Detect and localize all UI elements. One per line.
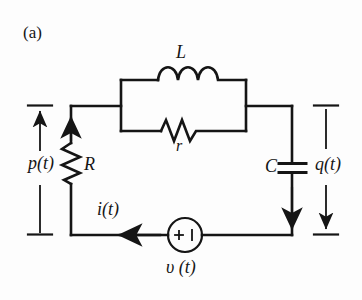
- charge-label: q(t): [315, 155, 341, 173]
- source-polarity-marks: [175, 230, 192, 240]
- coil-resistor-branch: [121, 120, 246, 141]
- flux-linkage-label: p(t): [28, 154, 54, 172]
- inductor-branch: [121, 67, 246, 80]
- circuit-figure: (a) L r R C p(t) q(t) i(t) υ (t): [0, 0, 362, 300]
- current-label: i(t): [97, 200, 119, 218]
- resistor-label: R: [84, 155, 95, 173]
- capacitor-label: C: [265, 157, 277, 175]
- inductor-label: L: [176, 43, 186, 61]
- voltage-source-label: υ (t): [166, 258, 196, 276]
- coil-resistor-label: r: [176, 138, 182, 154]
- panel-label: (a): [23, 24, 42, 41]
